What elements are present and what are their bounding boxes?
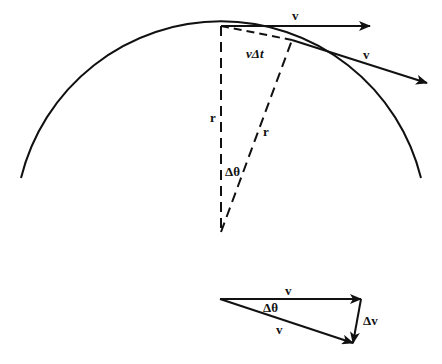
vector-triangle: v v Δv Δθ	[220, 283, 378, 343]
vector-v-final-label: v	[276, 322, 283, 337]
velocity-label-tangent: v	[363, 47, 370, 62]
vector-v-initial-label: v	[285, 283, 292, 298]
radius-slanted-dashed	[221, 40, 292, 232]
vector-delta-v	[353, 299, 361, 343]
angle-label: Δθ	[225, 164, 240, 179]
vector-angle-label: Δθ	[263, 300, 278, 315]
radius-label-vertical: r	[210, 110, 216, 125]
circular-motion-diagram: v v vΔt r r Δθ v v Δv Δθ	[0, 0, 442, 364]
chord-dashed	[221, 26, 292, 40]
velocity-label-top: v	[292, 8, 299, 23]
vector-v-final	[220, 299, 353, 343]
radius-label-slanted: r	[263, 124, 269, 139]
vector-delta-v-label: Δv	[363, 313, 378, 328]
velocity-vector-tangent	[292, 40, 427, 83]
chord-label: vΔt	[246, 46, 264, 61]
